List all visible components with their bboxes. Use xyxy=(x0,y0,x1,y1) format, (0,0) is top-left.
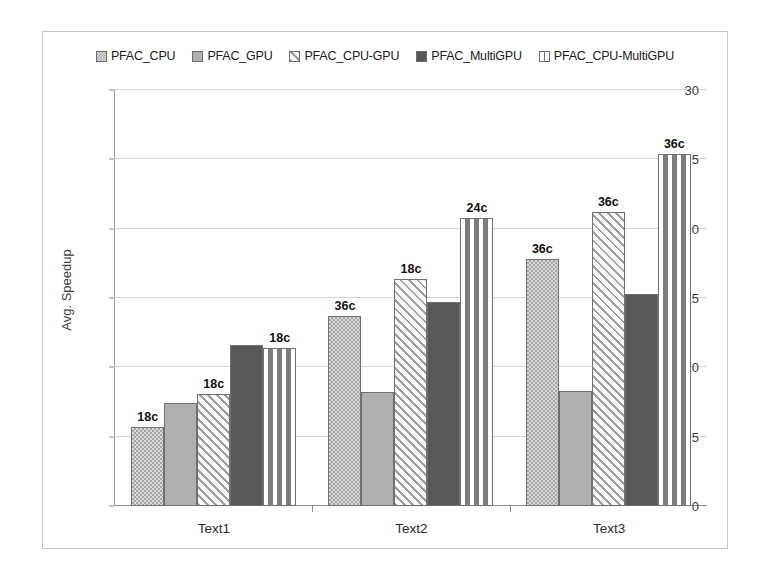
bar-value-label: 24c xyxy=(467,201,488,215)
chart-frame: PFAC_CPU PFAC_GPU PFAC_CPU-GPU PFAC_Mult… xyxy=(42,31,728,549)
bar-slot: 18c xyxy=(197,90,230,506)
group-separator-tick xyxy=(510,506,511,512)
bar-slot: 18c xyxy=(394,90,427,506)
bar-value-label: 18c xyxy=(137,410,158,424)
bar-slot xyxy=(164,90,197,506)
legend-item-pfac-multigpu[interactable]: PFAC_MultiGPU xyxy=(416,49,521,63)
bar-value-label: 36c xyxy=(598,195,619,209)
bar-pfac-gpu-text3[interactable] xyxy=(559,391,592,506)
bar-pfac-cpu-gpu-text3[interactable]: 36c xyxy=(592,212,625,506)
bar-pfac-cpu-multigpu-text3[interactable]: 36c xyxy=(658,154,691,506)
y-tick-mark xyxy=(109,159,114,160)
bar-pfac-gpu-text2[interactable] xyxy=(361,392,394,506)
bar-pfac-cpu-gpu-text1[interactable]: 18c xyxy=(197,394,230,506)
bar-pfac-cpu-multigpu-text2[interactable]: 24c xyxy=(460,218,493,506)
legend-swatch-icon-pfac-multigpu xyxy=(416,51,427,62)
bar-group-text1: 18c18c18c xyxy=(115,90,312,506)
bar-value-label: 18c xyxy=(203,377,224,391)
bar-slot: 36c xyxy=(592,90,625,506)
legend-swatch-icon-pfac-gpu xyxy=(192,51,203,62)
y-tick-mark xyxy=(109,506,114,507)
bar-slot: 18c xyxy=(131,90,164,506)
legend-swatch-icon-pfac-cpu-multigpu xyxy=(539,51,550,62)
bar-group-text2: 36c18c24c xyxy=(312,90,509,506)
chart-legend: PFAC_CPU PFAC_GPU PFAC_CPU-GPU PFAC_Mult… xyxy=(43,49,727,63)
legend-label-pfac-gpu: PFAC_GPU xyxy=(207,49,272,63)
legend-item-pfac-cpu-gpu[interactable]: PFAC_CPU-GPU xyxy=(289,49,399,63)
x-axis-labels: Text1Text2Text3 xyxy=(115,521,708,536)
bar-pfac-multigpu-text2[interactable] xyxy=(427,302,460,506)
bar-pfac-cpu-gpu-text2[interactable]: 18c xyxy=(394,279,427,506)
x-tick-label-text1: Text1 xyxy=(115,521,313,536)
legend-label-pfac-cpu-gpu: PFAC_CPU-GPU xyxy=(304,49,399,63)
bar-value-label: 36c xyxy=(335,299,356,313)
bar-slot xyxy=(230,90,263,506)
bar-value-label: 18c xyxy=(401,262,422,276)
bar-value-label: 18c xyxy=(269,331,290,345)
bar-slot: 18c xyxy=(263,90,296,506)
bar-pfac-gpu-text1[interactable] xyxy=(164,403,197,506)
bar-pfac-multigpu-text3[interactable] xyxy=(625,294,658,506)
legend-label-pfac-cpu-multigpu: PFAC_CPU-MultiGPU xyxy=(554,49,674,63)
y-tick-mark xyxy=(109,436,114,437)
bar-slot: 36c xyxy=(526,90,559,506)
legend-swatch-icon-pfac-cpu xyxy=(96,51,107,62)
bar-slot: 36c xyxy=(658,90,691,506)
y-tick-mark xyxy=(109,298,114,299)
bar-groups: 18c18c18c36c18c24c36c36c36c xyxy=(115,90,707,506)
bar-value-label: 36c xyxy=(664,137,685,151)
bar-slot xyxy=(625,90,658,506)
bar-pfac-cpu-text2[interactable]: 36c xyxy=(328,316,361,506)
y-tick-mark xyxy=(109,90,114,91)
legend-label-pfac-cpu: PFAC_CPU xyxy=(111,49,175,63)
legend-item-pfac-gpu[interactable]: PFAC_GPU xyxy=(192,49,272,63)
legend-item-pfac-cpu-multigpu[interactable]: PFAC_CPU-MultiGPU xyxy=(539,49,674,63)
y-axis-title: Avg. Speedup xyxy=(59,249,74,330)
bar-slot xyxy=(559,90,592,506)
bar-value-label: 36c xyxy=(532,242,553,256)
bar-pfac-cpu-text1[interactable]: 18c xyxy=(131,427,164,506)
bar-slot xyxy=(361,90,394,506)
plot-area: 051015202530 18c18c18c36c18c24c36c36c36c xyxy=(114,90,707,506)
legend-item-pfac-cpu[interactable]: PFAC_CPU xyxy=(96,49,175,63)
legend-label-pfac-multigpu: PFAC_MultiGPU xyxy=(431,49,521,63)
y-tick-mark xyxy=(109,228,114,229)
bar-slot: 36c xyxy=(328,90,361,506)
x-tick-label-text3: Text3 xyxy=(510,521,708,536)
bar-group-text3: 36c36c36c xyxy=(510,90,707,506)
bar-pfac-cpu-text3[interactable]: 36c xyxy=(526,259,559,506)
legend-swatch-icon-pfac-cpu-gpu xyxy=(289,51,300,62)
bar-slot: 24c xyxy=(460,90,493,506)
bar-pfac-multigpu-text1[interactable] xyxy=(230,345,263,506)
x-tick-label-text2: Text2 xyxy=(313,521,511,536)
bar-slot xyxy=(427,90,460,506)
bar-pfac-cpu-multigpu-text1[interactable]: 18c xyxy=(263,348,296,506)
y-tick-mark xyxy=(109,367,114,368)
group-separator-tick xyxy=(312,506,313,512)
